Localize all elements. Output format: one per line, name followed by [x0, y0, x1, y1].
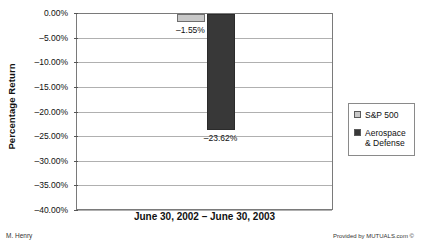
y-axis-tick [74, 136, 78, 137]
y-axis-tick-label: –5.00% [39, 33, 68, 43]
y-axis-tick [74, 13, 78, 14]
y-axis-tick-label: –15.00% [34, 82, 68, 92]
bar-value-label-sp500: –1.55% [176, 25, 205, 35]
credit-provider: Provided by MUTUALS.com © [333, 233, 414, 239]
y-axis-title-text: Percentage Return [6, 63, 17, 149]
gridline [77, 62, 332, 63]
gridline [77, 161, 332, 162]
y-axis-tick-label: –40.00% [34, 205, 68, 215]
y-axis-tick-label: –30.00% [34, 156, 68, 166]
legend-label-aerospace-defense: Aerospace& Defense [365, 128, 406, 149]
legend-swatch-sp500-icon [354, 111, 361, 118]
legend-label-line2: & Defense [365, 138, 405, 148]
y-axis-tick [74, 62, 78, 63]
x-axis-title: June 30, 2002 – June 30, 2003 [76, 211, 333, 222]
legend-label-sp500: S&P 500 [365, 110, 398, 121]
y-axis-tick-label: –25.00% [34, 131, 68, 141]
bar-sp500[interactable] [177, 14, 205, 22]
y-axis-tick [74, 112, 78, 113]
legend-item-sp500[interactable]: S&P 500 [354, 110, 410, 121]
y-axis-tick [74, 161, 78, 162]
y-axis-tick [74, 185, 78, 186]
y-axis-tick-label: 0.00% [44, 8, 68, 18]
gridline [77, 112, 332, 113]
y-axis-title: Percentage Return [2, 0, 20, 212]
legend-label-line1: Aerospace [365, 128, 406, 138]
gridline [77, 87, 332, 88]
y-axis-tick-labels: 0.00%–5.00%–10.00%–15.00%–20.00%–25.00%–… [20, 13, 72, 210]
bar-value-label-aerospace-defense: –23.62% [204, 133, 238, 143]
gridline [77, 185, 332, 186]
plot-area: –1.55%–23.62% [76, 13, 333, 210]
y-axis-tick-label: –20.00% [34, 107, 68, 117]
legend-item-aerospace-defense[interactable]: Aerospace& Defense [354, 128, 410, 149]
gridline [77, 38, 332, 39]
y-axis-tick [74, 87, 78, 88]
credit-author: M. Henry [6, 232, 32, 239]
y-axis-tick-label: –35.00% [34, 180, 68, 190]
legend-swatch-aerospace-icon [354, 129, 361, 136]
y-axis-tick-label: –10.00% [34, 57, 68, 67]
bar-aerospace-defense[interactable] [207, 14, 235, 130]
chart-legend: S&P 500 Aerospace& Defense [348, 103, 415, 156]
y-axis-tick [74, 38, 78, 39]
